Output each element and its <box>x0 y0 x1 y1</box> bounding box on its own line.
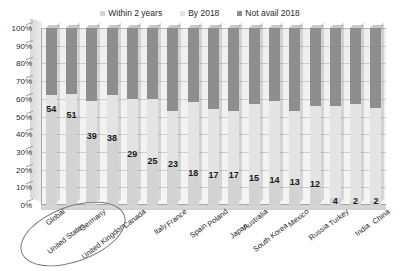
bar-segment[interactable] <box>167 164 178 205</box>
bar-segment[interactable] <box>127 99 138 154</box>
bar-segment[interactable] <box>249 104 260 178</box>
bar-segment[interactable] <box>249 28 260 104</box>
bar-segment[interactable] <box>188 102 199 173</box>
bar-data-label: 2 <box>353 196 358 206</box>
stacked-bar[interactable] <box>370 28 381 205</box>
bar-slot[interactable]: 17 <box>203 28 223 205</box>
stacked-bar[interactable] <box>86 28 97 205</box>
stacked-bar[interactable] <box>46 28 57 205</box>
bar-segment[interactable] <box>330 28 341 106</box>
x-axis-tick-label: France <box>165 207 189 228</box>
bar-segment[interactable] <box>370 28 381 108</box>
bar-segment[interactable] <box>228 111 239 175</box>
bar-segment[interactable] <box>66 115 77 205</box>
bar-segment[interactable] <box>208 28 219 109</box>
stacked-bar[interactable] <box>127 28 138 205</box>
y-axis-tick-mark <box>26 110 33 114</box>
bar-data-label: 23 <box>168 159 178 169</box>
stacked-bar[interactable] <box>107 28 118 205</box>
bar-slot[interactable]: 38 <box>102 28 122 205</box>
bar-slot[interactable]: 29 <box>122 28 142 205</box>
bar-slot[interactable]: 13 <box>285 28 305 205</box>
bar-slot[interactable]: 54 <box>41 28 61 205</box>
y-axis-tick-label: 90% <box>16 41 32 50</box>
bar-segment[interactable] <box>370 108 381 202</box>
bar-segment[interactable] <box>107 95 118 137</box>
bar-segment[interactable] <box>127 154 138 205</box>
bar-series-container: 5451393829252318171715141312422 <box>41 28 386 205</box>
stacked-bar[interactable] <box>167 28 178 205</box>
y-axis-tick-mark <box>26 93 33 97</box>
stacked-bar[interactable] <box>330 28 341 205</box>
y-axis-tick-label: 0% <box>20 201 32 210</box>
bar-segment[interactable] <box>167 28 178 111</box>
bar-segment[interactable] <box>310 106 321 184</box>
x-axis-tick-label: Mexico <box>286 207 310 229</box>
legend-item-within-2-years: Within 2 years <box>100 8 162 18</box>
bar-data-label: 17 <box>209 170 219 180</box>
x-axis-tick-label: China <box>370 207 391 226</box>
bar-slot[interactable]: 15 <box>244 28 264 205</box>
x-axis-tick-label: Poland <box>205 207 229 228</box>
stacked-bar[interactable] <box>147 28 158 205</box>
bar-segment[interactable] <box>188 28 199 102</box>
bar-slot[interactable]: 39 <box>82 28 102 205</box>
bar-data-label: 2 <box>373 196 378 206</box>
bar-segment[interactable] <box>46 109 57 205</box>
stacked-bar[interactable] <box>188 28 199 205</box>
bar-segment[interactable] <box>147 161 158 205</box>
bar-segment[interactable] <box>228 28 239 111</box>
bar-segment[interactable] <box>86 28 97 101</box>
y-axis-tick-label: 70% <box>16 77 32 86</box>
bar-segment[interactable] <box>289 28 300 111</box>
bar-slot[interactable]: 4 <box>325 28 345 205</box>
bar-data-label: 25 <box>148 156 158 166</box>
chart-legend: Within 2 years By 2018 Not avail 2018 <box>0 8 400 18</box>
bar-segment[interactable] <box>86 136 97 205</box>
x-axis-tick-label: Russia <box>307 221 331 242</box>
bar-segment[interactable] <box>350 104 361 201</box>
x-axis-tick-label: Global <box>44 207 67 227</box>
y-axis-tick-label: 50% <box>16 112 32 121</box>
bar-segment[interactable] <box>107 138 118 205</box>
bar-slot[interactable]: 25 <box>142 28 162 205</box>
bar-slot[interactable]: 2 <box>366 28 386 205</box>
bar-segment[interactable] <box>147 99 158 161</box>
bar-segment[interactable] <box>330 106 341 198</box>
y-axis-tick-label: 80% <box>16 59 32 68</box>
bar-data-label: 18 <box>188 168 198 178</box>
bar-slot[interactable]: 18 <box>183 28 203 205</box>
bar-slot[interactable]: 23 <box>163 28 183 205</box>
legend-label-not-avail-2018: Not avail 2018 <box>245 8 299 18</box>
bar-slot[interactable]: 51 <box>61 28 81 205</box>
bar-slot[interactable]: 12 <box>305 28 325 205</box>
x-axis-tick-label: India <box>353 221 371 238</box>
bar-slot[interactable]: 14 <box>264 28 284 205</box>
bar-segment[interactable] <box>107 28 118 95</box>
bar-segment[interactable] <box>310 28 321 106</box>
bar-segment[interactable] <box>269 28 280 101</box>
bar-segment[interactable] <box>269 101 280 181</box>
bar-segment[interactable] <box>167 111 178 164</box>
bar-data-label: 39 <box>87 131 97 141</box>
y-axis-tick-label: 60% <box>16 94 32 103</box>
bar-segment[interactable] <box>208 109 219 174</box>
x-axis-tick-label: Canada <box>122 207 148 230</box>
stacked-bar[interactable] <box>350 28 361 205</box>
bar-segment[interactable] <box>127 28 138 99</box>
y-axis: 100%90%80%70%60%50%40%30%20%10%0% <box>0 28 38 206</box>
bar-segment[interactable] <box>350 28 361 104</box>
bar-slot[interactable]: 17 <box>224 28 244 205</box>
bar-data-label: 38 <box>107 133 117 143</box>
legend-item-by-2018: By 2018 <box>180 8 219 18</box>
y-axis-tick-label: 40% <box>16 130 32 139</box>
y-axis-tick-mark <box>26 146 33 150</box>
bar-segment[interactable] <box>147 28 158 99</box>
bar-slot[interactable]: 2 <box>345 28 365 205</box>
legend-item-not-avail-2018: Not avail 2018 <box>237 8 299 18</box>
bar-segment[interactable] <box>66 28 77 93</box>
bar-segment[interactable] <box>289 111 300 182</box>
bar-segment[interactable] <box>46 28 57 95</box>
y-axis-tick-mark <box>26 57 33 61</box>
